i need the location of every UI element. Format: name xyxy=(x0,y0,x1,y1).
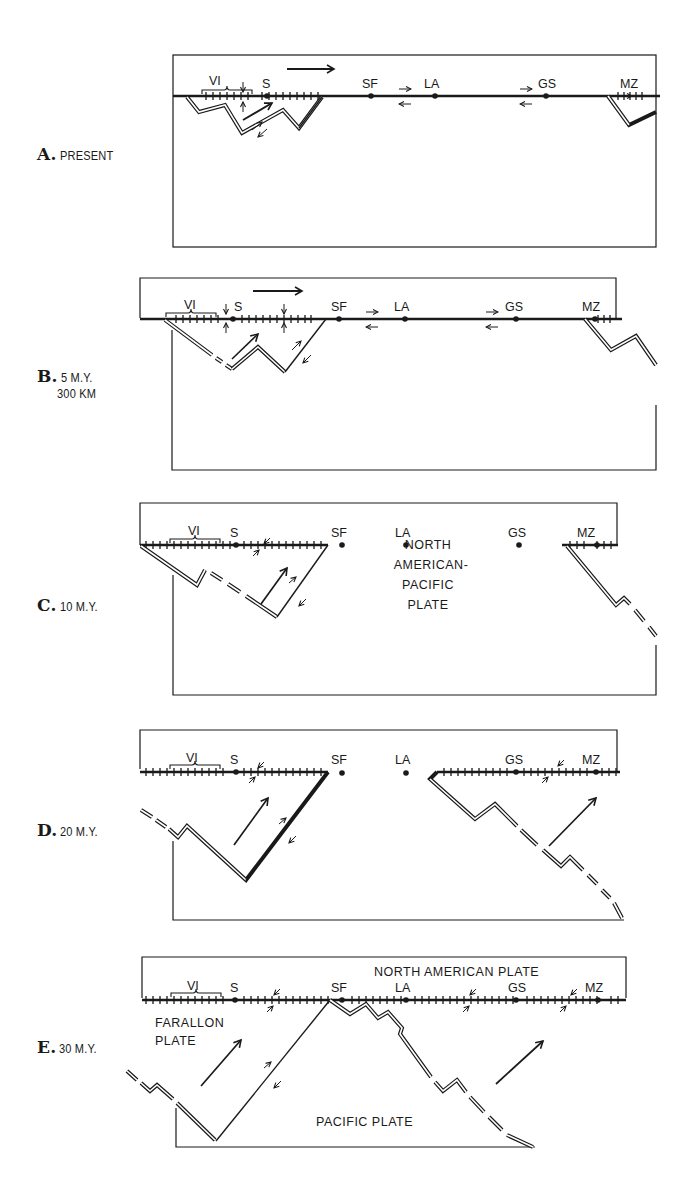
transform-fault xyxy=(216,1000,330,1141)
mz-ridge xyxy=(608,96,656,125)
label-sf: SF xyxy=(362,77,378,91)
mz-ridge xyxy=(585,319,656,365)
label-mz: MZ xyxy=(620,77,638,91)
label-s: S xyxy=(262,77,270,91)
label-gs: GS xyxy=(505,300,523,314)
plate-label-na-pacific-4: PLATE xyxy=(407,598,448,612)
panel-d xyxy=(140,730,624,920)
label-vi: VI xyxy=(188,524,200,538)
label-la: LA xyxy=(424,77,440,91)
panel-a xyxy=(173,55,660,247)
plate-label-pacific: PACIFIC PLATE xyxy=(316,1115,413,1129)
label-vi: VI xyxy=(187,979,199,993)
plate-motion-arrow xyxy=(201,1040,241,1086)
transform-fault xyxy=(277,545,328,617)
transform-fault xyxy=(285,319,326,372)
label-mz: MZ xyxy=(582,300,600,314)
plate-label-na-pacific-1: NORTH xyxy=(405,538,452,552)
plate-motion-arrow xyxy=(261,568,287,604)
label-sf: SF xyxy=(331,300,347,314)
plate-label-na-pacific-3: PACIFIC xyxy=(402,578,454,592)
plate-label-na-pacific-2: AMERICAN- xyxy=(394,558,469,572)
subduction-ticks xyxy=(146,541,611,549)
label-sf: SF xyxy=(331,753,347,767)
location-dot-la xyxy=(432,93,438,99)
label-gs: GS xyxy=(538,77,556,91)
label-la: LA xyxy=(394,300,410,314)
panel-b-bottom-frame xyxy=(172,330,656,470)
subduction-ticks xyxy=(146,768,616,776)
label-sf: SF xyxy=(331,526,347,540)
label-gs: GS xyxy=(508,981,526,995)
label-gs: GS xyxy=(505,753,523,767)
label-mz: MZ xyxy=(582,753,600,767)
plate-motion-arrow xyxy=(232,334,258,359)
label-s: S xyxy=(234,300,242,314)
label-s: S xyxy=(230,981,238,995)
mz-ridge xyxy=(567,546,630,605)
label-mz: MZ xyxy=(577,526,595,540)
plate-motion-arrow xyxy=(549,798,596,846)
location-dot-s xyxy=(264,93,270,99)
label-s: S xyxy=(230,753,238,767)
plate-label-north-american: NORTH AMERICAN PLATE xyxy=(374,965,539,979)
label-gs: GS xyxy=(508,526,526,540)
label-la: LA xyxy=(395,753,411,767)
label-sf: SF xyxy=(331,981,347,995)
panel-a-frame xyxy=(173,55,656,247)
panel-d-top-frame xyxy=(140,730,617,772)
label-vi: VI xyxy=(186,751,198,765)
label-mz: MZ xyxy=(585,981,603,995)
label-vi: VI xyxy=(209,74,221,88)
plate-motion-arrow xyxy=(234,798,268,845)
label-vi: VI xyxy=(184,298,196,312)
label-s: S xyxy=(230,526,238,540)
panel-c-bottom-frame xyxy=(173,575,656,695)
panel-d-bottom-frame xyxy=(173,841,624,920)
plate-label-farallon-1: FARALLON xyxy=(155,1016,224,1030)
label-la: LA xyxy=(395,981,411,995)
tectonic-diagram: VI S SF LA GS MZ xyxy=(0,0,682,1192)
location-dot-gs xyxy=(543,93,549,99)
location-dot-sf xyxy=(368,93,374,99)
plate-label-farallon-2: PLATE xyxy=(155,1034,196,1048)
plate-motion-arrow xyxy=(496,1041,543,1084)
